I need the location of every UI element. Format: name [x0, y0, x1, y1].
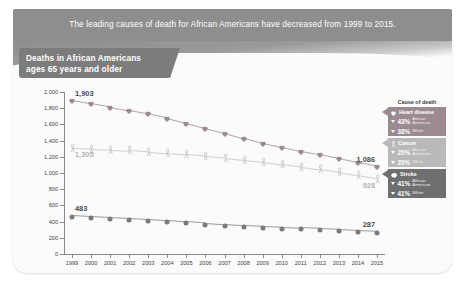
- chart-card: Deaths in African Americans ages 65 year…: [13, 41, 452, 273]
- ribbon-icon: [144, 143, 152, 161]
- ribbon-icon: [354, 166, 362, 184]
- x-axis-tick: [167, 254, 168, 258]
- y-axis-tick-label: 200: [49, 235, 58, 241]
- circle-icon: [317, 219, 323, 237]
- chart-title-line-2: ages 65 years and older: [26, 64, 122, 74]
- y-axis-tick: [60, 141, 64, 142]
- headline-banner: The leading causes of death for African …: [13, 9, 452, 45]
- x-axis-tick-label: 2009: [256, 260, 268, 266]
- y-axis-tick: [60, 124, 64, 125]
- y-axis-tick-label: 1,200: [44, 154, 58, 160]
- series-end-value-label: 1,086: [357, 155, 376, 164]
- legend-head: Stroke: [388, 169, 446, 178]
- legend-stat-row: 38%White: [388, 126, 446, 136]
- x-axis-tick: [129, 254, 130, 258]
- legend-items: Heart disease43%AfricanAmerican38%WhiteC…: [388, 107, 446, 198]
- chart-title-line-1: Deaths in African Americans: [26, 53, 141, 63]
- y-axis-tick-label: 400: [49, 219, 58, 225]
- x-axis-tick: [72, 254, 73, 258]
- y-axis-tick: [60, 189, 64, 190]
- legend-stat-row: 41%White: [388, 188, 446, 198]
- legend-percent-value: 41%: [398, 180, 411, 187]
- heart-icon: [259, 134, 267, 152]
- x-axis-tick: [339, 254, 340, 258]
- circle-icon: [336, 220, 342, 238]
- x-axis-tick-label: 1999: [66, 260, 78, 266]
- y-axis-tick: [60, 254, 64, 255]
- y-axis-tick-label: 600: [49, 202, 58, 208]
- x-axis-tick: [225, 254, 226, 258]
- series-start-value-label: 1,305: [75, 150, 94, 159]
- circle-icon: [183, 212, 189, 230]
- ribbon-icon: [316, 160, 324, 178]
- x-axis-tick-label: 2002: [123, 260, 135, 266]
- legend-head: Cancer: [388, 138, 446, 147]
- series-end-value-label: 287: [363, 220, 375, 229]
- x-axis-tick: [205, 254, 206, 258]
- heart-icon: [163, 109, 171, 127]
- x-axis-tick-label: 2003: [142, 260, 154, 266]
- x-axis-tick: [244, 254, 245, 258]
- x-axis-tick-label: 2015: [371, 260, 383, 266]
- legend-cause-label: Stroke: [400, 171, 417, 177]
- arrow-down-icon: [391, 192, 395, 195]
- legend-group-label: White: [412, 129, 423, 133]
- x-axis-tick: [110, 254, 111, 258]
- x-axis-tick-label: 2001: [104, 260, 116, 266]
- heart-icon: [144, 104, 152, 122]
- x-axis-tick: [148, 254, 149, 258]
- y-axis-tick: [60, 108, 64, 109]
- ribbon-icon: [163, 144, 171, 162]
- x-axis-tick-label: 2008: [237, 260, 249, 266]
- legend-group-label: AfricanAmerican: [412, 148, 430, 157]
- legend-group-label: AfricanAmerican: [412, 179, 430, 188]
- ribbon-icon: [182, 145, 190, 163]
- legend-percent-value: 43%: [398, 118, 411, 125]
- x-axis-tick: [320, 254, 321, 258]
- circle-icon: [107, 208, 113, 226]
- x-axis-tick-label: 2014: [352, 260, 364, 266]
- heart-icon: [278, 138, 286, 156]
- ribbon-icon: [297, 158, 305, 176]
- heart-icon: [201, 119, 209, 137]
- chart-title-tab: Deaths in African Americans ages 65 year…: [19, 48, 171, 78]
- x-axis-tick-label: 2010: [275, 260, 287, 266]
- y-axis-tick-label: 1,600: [44, 121, 58, 127]
- infographic-poster: The leading causes of death for African …: [0, 0, 465, 291]
- y-axis-tick-label: 1,800: [44, 105, 58, 111]
- x-axis-tick-label: 2011: [295, 260, 307, 266]
- ribbon-icon: [390, 134, 396, 152]
- circle-icon: [260, 217, 266, 235]
- legend-percent-value: 41%: [398, 190, 411, 197]
- legend-group-label: White: [412, 160, 423, 164]
- ribbon-icon: [259, 153, 267, 171]
- heart-icon: [240, 129, 248, 147]
- x-axis-tick: [358, 254, 359, 258]
- series-start-value-label: 1,903: [75, 89, 94, 98]
- legend-percent-value: 20%: [398, 149, 411, 156]
- circle-icon: [279, 218, 285, 236]
- legend-percent-value: 20%: [398, 159, 411, 166]
- x-axis-tick-label: 2012: [314, 260, 326, 266]
- x-axis-tick: [282, 254, 283, 258]
- brain-icon: [390, 165, 398, 183]
- legend-block: Stroke41%AfricanAmerican41%White: [388, 169, 446, 198]
- ribbon-icon: [106, 141, 114, 159]
- circle-icon: [202, 214, 208, 232]
- y-axis-tick: [60, 205, 64, 206]
- series-end-value-label: 928: [363, 181, 375, 190]
- y-axis-tick: [60, 222, 64, 223]
- y-axis-tick-label: 1,000: [44, 170, 58, 176]
- x-axis-tick: [186, 254, 187, 258]
- y-axis-tick-label: 0: [55, 251, 58, 257]
- x-axis-tick-label: 2006: [199, 260, 211, 266]
- legend-cause-label: Heart disease: [399, 109, 434, 115]
- chart-legend: Cause of death Heart disease43%AfricanAm…: [388, 99, 446, 200]
- y-axis-tick: [60, 92, 64, 93]
- heart-icon: [221, 124, 229, 142]
- y-axis-tick-label: 2,000: [44, 89, 58, 95]
- y-axis-tick-label: 800: [49, 186, 58, 192]
- x-axis-tick-label: 2005: [180, 260, 192, 266]
- headline-text: The leading causes of death for African …: [13, 20, 452, 29]
- x-axis-tick-label: 2013: [333, 260, 345, 266]
